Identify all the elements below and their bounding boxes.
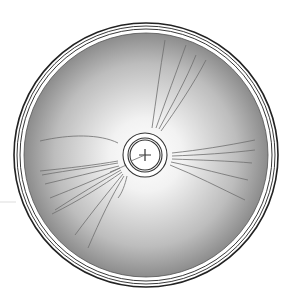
particle-chamber-diagram	[0, 0, 290, 303]
chamber-svg	[0, 0, 290, 303]
